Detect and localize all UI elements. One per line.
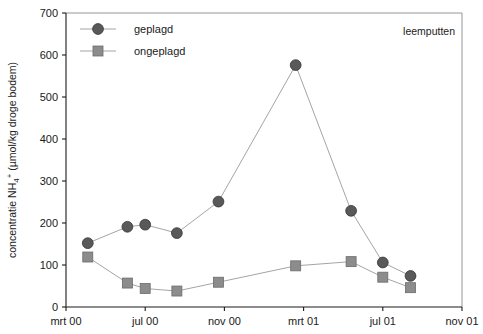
data-point-marker <box>346 257 356 267</box>
y-tick-label: 200 <box>40 217 58 229</box>
data-point-marker <box>140 219 151 230</box>
legend-label: geplagd <box>134 23 173 35</box>
chart-container: 0100200300400500600700 mrt 00jul 00nov 0… <box>0 0 483 334</box>
data-point-marker <box>291 261 301 271</box>
plot-annotation-label: leemputten <box>403 25 455 37</box>
data-point-marker <box>213 196 224 207</box>
data-point-marker <box>83 252 93 262</box>
data-point-marker <box>213 277 223 287</box>
data-point-marker <box>82 238 93 249</box>
y-tick-label: 100 <box>40 259 58 271</box>
x-tick-label: nov 01 <box>445 315 478 327</box>
legend-marker-circle-icon <box>93 24 104 35</box>
y-tick-label: 600 <box>40 49 58 61</box>
y-tick-label: 300 <box>40 175 58 187</box>
data-point-marker <box>171 228 182 239</box>
x-tick-label: mrt 01 <box>288 315 319 327</box>
data-point-marker <box>406 283 416 293</box>
data-point-marker <box>405 271 416 282</box>
y-tick-label: 700 <box>40 7 58 19</box>
y-tick-label: 500 <box>40 91 58 103</box>
data-point-marker <box>122 221 133 232</box>
data-point-marker <box>140 284 150 294</box>
data-point-marker <box>172 286 182 296</box>
x-tick-label: jul 01 <box>369 315 396 327</box>
y-tick-label: 0 <box>52 301 58 313</box>
data-point-marker <box>122 278 132 288</box>
x-tick-label: jul 00 <box>131 315 158 327</box>
x-tick-label: mrt 00 <box>50 315 81 327</box>
data-point-marker <box>378 272 388 282</box>
data-point-marker <box>290 60 301 71</box>
legend-label: ongeplagd <box>134 45 185 57</box>
x-tick-label: nov 00 <box>208 315 241 327</box>
data-point-marker <box>377 257 388 268</box>
y-tick-label: 400 <box>40 133 58 145</box>
data-point-marker <box>346 205 357 216</box>
nh4-concentration-line-chart: 0100200300400500600700 mrt 00jul 00nov 0… <box>0 0 483 334</box>
legend-marker-square-icon <box>93 46 103 56</box>
